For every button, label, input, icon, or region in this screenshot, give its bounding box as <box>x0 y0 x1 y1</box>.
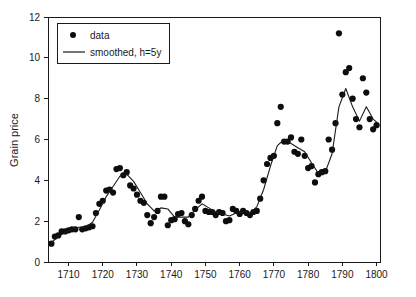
x-axis-ticks: 1710172017301740175017601770178017901800 <box>57 262 388 280</box>
data-point <box>130 185 136 191</box>
data-point <box>373 122 379 128</box>
x-tick-label: 1760 <box>229 269 252 280</box>
y-tick-label: 4 <box>34 175 40 186</box>
y-tick-label: 8 <box>34 93 40 104</box>
data-point <box>363 89 369 95</box>
data-point <box>278 104 284 110</box>
x-tick-label: 1710 <box>57 269 80 280</box>
data-point <box>48 241 54 247</box>
data-point <box>192 206 198 212</box>
data-point <box>178 210 184 216</box>
chart-legend: data smoothed, h=5y <box>57 23 169 63</box>
data-point <box>332 120 338 126</box>
data-point <box>151 214 157 220</box>
legend-marker-data <box>70 32 76 38</box>
data-point <box>117 165 123 171</box>
x-tick-label: 1720 <box>92 269 115 280</box>
data-point <box>76 214 82 220</box>
legend-label-smoothed: smoothed, h=5y <box>90 47 161 58</box>
data-point <box>288 134 294 140</box>
y-axis-title: Grain price <box>8 113 20 167</box>
legend-label-data: data <box>90 30 110 41</box>
data-point <box>356 124 362 130</box>
data-point <box>144 212 150 218</box>
data-point <box>165 222 171 228</box>
data-point <box>312 179 318 185</box>
data-point <box>346 65 352 71</box>
y-tick-label: 2 <box>34 216 40 227</box>
x-tick-label: 1750 <box>194 269 217 280</box>
grain-price-scatter-chart: 024681012 171017201730174017501760177017… <box>0 0 416 297</box>
chart-figure: 024681012 171017201730174017501760177017… <box>0 0 416 297</box>
data-point <box>264 161 270 167</box>
x-tick-label: 1740 <box>160 269 183 280</box>
x-tick-label: 1780 <box>297 269 320 280</box>
y-axis-ticks: 024681012 <box>29 12 48 268</box>
data-point <box>161 194 167 200</box>
data-point <box>185 221 191 227</box>
x-tick-label: 1800 <box>365 269 388 280</box>
data-point <box>226 217 232 223</box>
data-point <box>295 151 301 157</box>
data-point <box>326 136 332 142</box>
data-point <box>274 120 280 126</box>
y-tick-label: 0 <box>34 257 40 268</box>
data-point <box>148 220 154 226</box>
data-point <box>360 75 366 81</box>
x-tick-label: 1730 <box>126 269 149 280</box>
data-point <box>336 30 342 36</box>
data-point <box>134 192 140 198</box>
y-tick-label: 12 <box>29 12 41 23</box>
x-tick-label: 1770 <box>263 269 286 280</box>
data-point <box>298 136 304 142</box>
y-tick-label: 10 <box>29 52 41 63</box>
data-point <box>199 194 205 200</box>
y-tick-label: 6 <box>34 134 40 145</box>
x-tick-label: 1790 <box>331 269 354 280</box>
